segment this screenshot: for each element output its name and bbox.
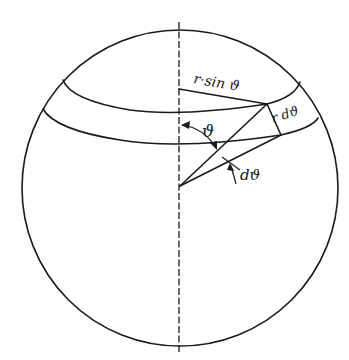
- arc-length-label: r dϑ: [269, 103, 300, 126]
- sphere-outline: [22, 30, 338, 346]
- upper-band-circle-front: [63, 80, 300, 112]
- theta-label: ϑ: [202, 121, 214, 141]
- dtheta-label: dϑ: [240, 166, 261, 184]
- radius-sin-label: r·sin ϑ: [192, 70, 240, 94]
- radius-to-lower-point: [180, 135, 281, 186]
- sphere-zone-diagram: r·sin ϑ r dϑ ϑ dϑ: [0, 0, 349, 360]
- theta-arrowhead-start-icon: [181, 121, 190, 129]
